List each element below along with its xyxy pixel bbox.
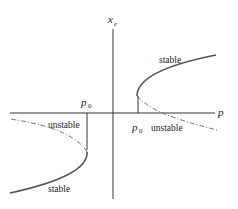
xe-axis-label-subscript: e <box>114 20 117 28</box>
xe-axis-label-symbol: x <box>107 13 113 25</box>
left-p0-label: p 0 <box>80 96 92 110</box>
lower-right-unstable-label: unstable <box>151 123 183 133</box>
lower-left-stable-label: stable <box>48 184 70 194</box>
p-axis-label: p <box>217 106 224 118</box>
right-p0-symbol: p <box>131 121 138 133</box>
bifurcation-diagram: p x e p 0 p 0 stable unstable unstable s… <box>0 0 238 209</box>
xe-axis-label: x e <box>107 13 117 28</box>
left-p0-symbol: p <box>80 96 87 108</box>
upper-left-unstable-label: unstable <box>48 120 80 130</box>
upper-right-stable-label: stable <box>159 55 181 65</box>
left-p0-subscript: 0 <box>88 102 92 110</box>
right-p0-subscript: 0 <box>139 127 143 135</box>
right-p0-label: p 0 <box>131 121 143 135</box>
